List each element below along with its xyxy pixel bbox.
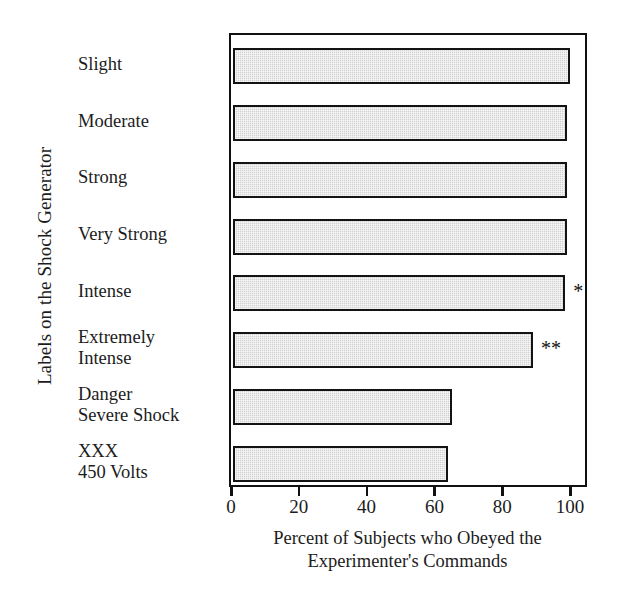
x-axis-tick-label: 0 — [201, 496, 261, 518]
category-label: Slight — [78, 54, 226, 75]
x-axis-tick — [501, 487, 504, 496]
x-axis-tick-label: 20 — [269, 496, 329, 518]
bar — [233, 275, 565, 311]
significance-marker: * — [573, 281, 583, 301]
x-axis-tick — [298, 487, 301, 496]
bar — [233, 48, 570, 84]
bar — [233, 219, 567, 255]
bar — [233, 332, 533, 368]
x-axis-title-line-1: Percent of Subjects who Obeyed the — [200, 527, 615, 550]
plot-area: *** — [229, 33, 587, 487]
x-axis-tick — [366, 487, 369, 496]
y-axis-title: Labels on the Shock Generator — [34, 46, 56, 486]
category-label: Extremely Intense — [78, 327, 226, 369]
category-label: Intense — [78, 281, 226, 302]
x-axis-tick — [230, 487, 233, 496]
bar — [233, 446, 448, 482]
x-axis-tick-label: 60 — [404, 496, 464, 518]
category-label-list: SlightModerateStrongVery StrongIntenseEx… — [78, 33, 226, 487]
x-axis-tick-label: 80 — [472, 496, 532, 518]
bar — [233, 162, 567, 198]
category-label: Moderate — [78, 111, 226, 132]
x-axis-title: Percent of Subjects who Obeyed the Exper… — [200, 527, 615, 573]
significance-marker: ** — [541, 338, 561, 358]
x-axis-tick — [433, 487, 436, 496]
category-label: Danger Severe Shock — [78, 384, 226, 426]
bar-chart: Labels on the Shock Generator SlightMode… — [0, 0, 625, 591]
category-label: XXX 450 Volts — [78, 441, 226, 483]
x-axis-tick-label: 40 — [337, 496, 397, 518]
bar — [233, 389, 452, 425]
bar — [233, 105, 567, 141]
category-label: Very Strong — [78, 224, 226, 245]
x-axis-tick-label: 100 — [540, 496, 600, 518]
x-axis-tick — [569, 487, 572, 496]
x-axis-title-line-2: Experimenter's Commands — [200, 550, 615, 573]
category-label: Strong — [78, 167, 226, 188]
